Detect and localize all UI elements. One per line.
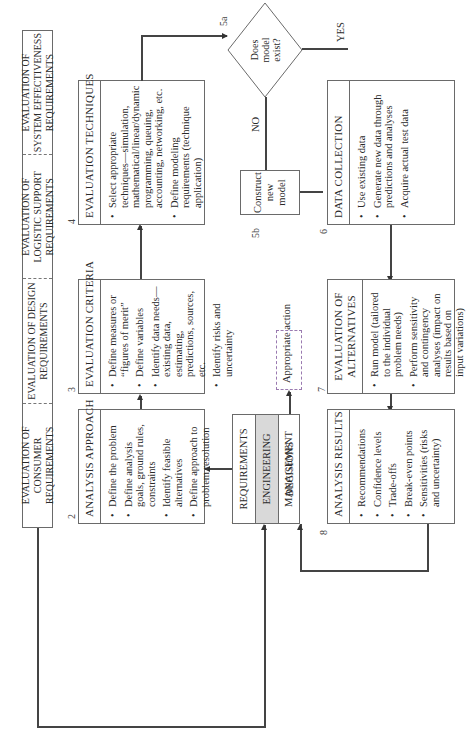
list-item: Identify data needs—existing data, estim… [150,286,208,377]
evaluation-of-alternatives-box: EVALUATION OF ALTERNATIVES Run model (ta… [327,279,455,394]
decision-question: Does model exist? [249,26,282,74]
connector-4-to-5a-up [141,36,227,38]
list-item: Acquire actual test data [399,87,411,208]
evaluation-criteria-title: EVALUATION CRITERIA [79,280,101,393]
analysis-approach-box: ANALYSIS APPROACH Define the problem Def… [78,409,205,524]
step-number-7: 7 [316,387,327,392]
list-item: Select appropriate techniques—simulation… [107,87,165,208]
connector-band-to-center-v [37,727,265,729]
analysis-results-box: ANALYSIS RESULTS Recommendations Confide… [327,409,455,524]
analysis-process-diagram: EVALUATION OF CONSUMER REQUIREMENTS EVAL… [0,0,474,742]
system-effectiveness-requirements-cell: EVALUATION OF SYSTEM EFFECTIVENESS REQUI… [23,31,52,154]
step-number-2: 2 [66,514,77,519]
list-item: Define modeling requirements (technique … [169,87,204,208]
connector-5b-to-6 [300,192,323,194]
list-item: Break-even points [403,416,415,507]
list-item: Perform sensitivity and contingency anal… [408,286,466,377]
connector-band-to-center [37,528,39,728]
step-number-6: 6 [318,229,329,234]
arrow-8-to-center [297,524,303,530]
list-item: Define variables [134,286,146,377]
arrow-center-to-2 [204,466,210,472]
center-requirements-row: REQUIREMENTS [233,415,255,523]
no-label: NO [250,117,261,132]
connector-8-loop-v [300,571,428,573]
logistic-support-requirements-cell: EVALUATION OF LOGISTIC SUPPORT REQUIREME… [23,154,52,278]
requirements-band: EVALUATION OF CONSUMER REQUIREMENTS EVAL… [22,30,53,528]
arrow-into-center [261,524,267,530]
construct-model-box: Construct new model [240,170,300,215]
evaluation-techniques-box: EVALUATION TECHNIQUES Select appropriate… [78,80,205,225]
list-item: Recommendations [356,416,368,507]
list-item: Generate new data through predictions an… [372,87,395,208]
list-item: Use existing data [356,87,368,208]
list-item: Confidence levels [372,416,384,507]
step-number-3: 3 [66,387,77,392]
data-collection-box: DATA COLLECTION Use existing data Genera… [327,80,455,225]
step-number-5b: 5b [250,228,261,238]
consumer-requirements-cell: EVALUATION OF CONSUMER REQUIREMENTS [23,403,52,527]
list-item: Trade-offs [387,416,399,507]
evaluation-of-alternatives-title: EVALUATION OF ALTERNATIVES [328,280,363,393]
connector-8-loop-down [300,524,302,572]
construct-model-text: Construct new model [252,171,288,214]
list-item: Run model (tailored to the individual pr… [369,286,404,377]
list-item: Define analysis goals, ground rules, con… [123,416,158,507]
step-number-8: 8 [318,530,329,535]
connector-8-loop-bottom [427,524,429,572]
requirements-center-box: REQUIREMENTS ENGINEERING MANAGEMENT DECI… [232,414,300,524]
evaluation-techniques-title: EVALUATION TECHNIQUES [79,81,101,224]
arrow-2-to-3 [137,394,143,400]
list-item: Identify risks and uncertainty [211,286,234,377]
connector-4-to-5a-v [141,37,143,81]
list-item: Sensitivities (risks and uncertainty) [418,416,441,507]
evaluation-criteria-box: EVALUATION CRITERIA Define measures or “… [78,279,205,394]
list-item: Define measures or “figures of merit” [107,286,130,377]
analysis-approach-title: ANALYSIS APPROACH [79,410,101,523]
connector-band-to-center-h [264,525,266,728]
appropriate-action-box: Appropriate action [276,330,302,390]
analysis-results-title: ANALYSIS RESULTS [328,410,350,523]
connector-6-to-7 [390,225,392,279]
list-item: Identify feasible alternatives [161,416,184,507]
data-collection-title: DATA COLLECTION [328,81,350,224]
list-item: Define the problem [107,416,119,507]
yes-label: YES [335,22,346,42]
step-number-4: 4 [66,219,77,224]
arrow-center-to-action [286,390,292,396]
connector-3-to-4 [140,226,142,279]
center-engineering-management-row: ENGINEERING MANAGEMENT [255,415,279,523]
list-item: Define approach to problem resolution [188,416,211,507]
connector-yes-branch [302,49,348,51]
design-requirements-cell: EVALUATION OF DESIGN REQUIREMENTS [23,279,52,403]
appropriate-action-text: Appropriate action [281,304,292,383]
